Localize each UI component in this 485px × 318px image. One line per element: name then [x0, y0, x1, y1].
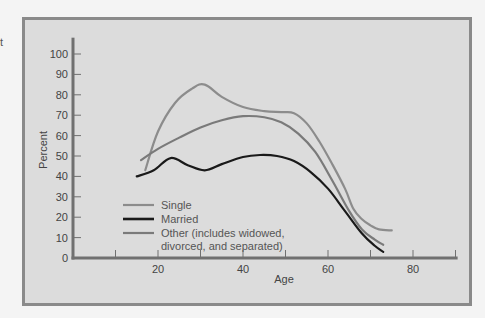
legend-label-single: Single — [161, 199, 192, 211]
y-tick-label: 30 — [56, 191, 68, 203]
y-tick-label: 70 — [56, 109, 68, 121]
legend-item-married: Married — [123, 213, 198, 225]
x-tick-label: 60 — [322, 263, 334, 275]
x-axis: 20406080 — [72, 250, 458, 275]
legend: Single Married Other (includes widowed, … — [123, 199, 285, 252]
y-tick-label: 40 — [56, 170, 68, 182]
y-tick-label: 10 — [56, 232, 68, 244]
legend-item-single: Single — [123, 199, 192, 211]
x-tick-label: 20 — [152, 263, 164, 275]
y-tick-label: 80 — [56, 89, 68, 101]
y-tick-label: 0 — [62, 252, 68, 264]
y-tick-label: 100 — [50, 48, 68, 60]
series-other — [141, 116, 383, 245]
legend-label-other-line1: Other (includes widowed, — [161, 227, 285, 239]
y-tick-label: 20 — [56, 211, 68, 223]
y-tick-label: 50 — [56, 150, 68, 162]
line-chart: 0102030405060708090100 20406080 Percent … — [0, 0, 485, 318]
x-axis-title: Age — [274, 273, 294, 285]
y-axis-title: Percent — [37, 131, 49, 169]
legend-item-other: Other (includes widowed, divorced, and s… — [123, 227, 285, 252]
y-tick-label: 90 — [56, 68, 68, 80]
y-tick-label: 60 — [56, 130, 68, 142]
legend-label-other-line2: divorced, and separated) — [161, 240, 283, 252]
y-axis: 0102030405060708090100 — [50, 38, 81, 264]
x-tick-label: 40 — [237, 263, 249, 275]
legend-label-married: Married — [161, 213, 198, 225]
x-tick-label: 80 — [407, 263, 419, 275]
